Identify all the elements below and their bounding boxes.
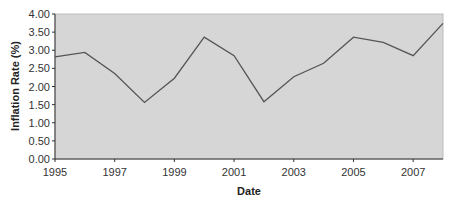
x-tick-label: 1999 — [162, 166, 186, 178]
x-tick-label: 2007 — [401, 166, 425, 178]
x-axis: 1995199719992001200320052007 — [43, 159, 443, 178]
y-tick-label: 3.00 — [29, 44, 50, 56]
y-tick-label: 1.50 — [29, 99, 50, 111]
y-tick-label: 1.00 — [29, 117, 50, 129]
y-tick-label: 3.50 — [29, 26, 50, 38]
y-tick-label: 4.00 — [29, 8, 50, 20]
y-tick-label: 2.00 — [29, 81, 50, 93]
line-chart: 0.000.501.001.502.002.503.003.504.00 199… — [0, 0, 453, 203]
x-tick-label: 2005 — [341, 166, 365, 178]
plot-area — [55, 14, 443, 159]
y-tick-label: 2.50 — [29, 62, 50, 74]
x-tick-label: 1997 — [102, 166, 126, 178]
y-axis-title: Inflation Rate (%) — [9, 41, 21, 131]
x-axis-title: Date — [237, 185, 261, 197]
y-tick-label: 0.50 — [29, 135, 50, 147]
y-tick-label: 0.00 — [29, 153, 50, 165]
x-tick-label: 1995 — [43, 166, 67, 178]
x-tick-label: 2001 — [222, 166, 246, 178]
y-axis: 0.000.501.001.502.002.503.003.504.00 — [29, 8, 55, 165]
x-tick-label: 2003 — [282, 166, 306, 178]
